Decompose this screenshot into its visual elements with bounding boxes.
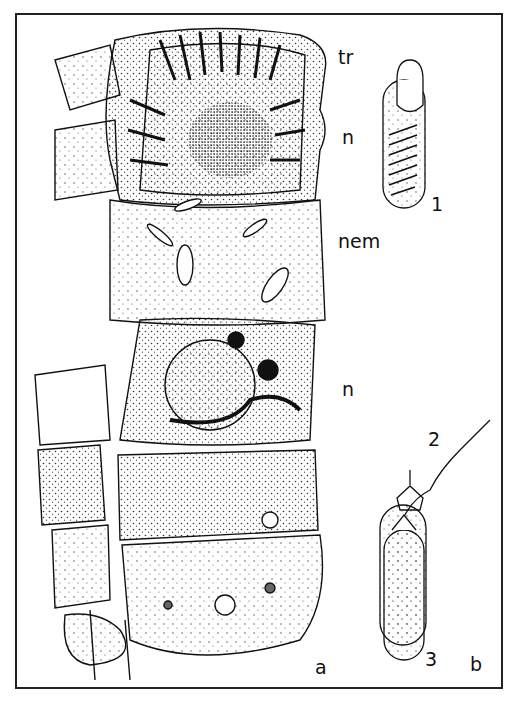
stage-1 xyxy=(383,60,425,208)
illustration xyxy=(0,0,519,706)
stage-number-1: 1 xyxy=(431,195,443,214)
label-nem: nem xyxy=(338,232,380,251)
nucleus-top xyxy=(188,102,272,178)
stage-3 xyxy=(384,420,490,660)
stage-number-2: 2 xyxy=(428,430,440,449)
label-tr: tr xyxy=(338,48,353,67)
panel-label-a: a xyxy=(315,658,327,677)
panel-label-b: b xyxy=(470,655,482,674)
label-n-mid: n xyxy=(342,380,354,399)
stage-number-3: 3 xyxy=(425,650,437,669)
label-n-top: n xyxy=(342,128,354,147)
cell-body xyxy=(35,29,326,680)
